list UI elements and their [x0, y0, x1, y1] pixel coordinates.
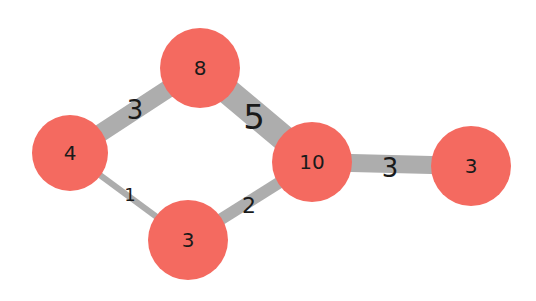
edge-weight-label: 3	[127, 95, 144, 125]
edge-weight-label: 3	[382, 153, 399, 183]
edge-weight-label: 5	[243, 97, 265, 137]
node-label: 8	[194, 56, 207, 80]
node-label: 10	[299, 150, 324, 174]
nodes-layer: 841033	[32, 28, 511, 280]
node-label: 3	[465, 154, 478, 178]
edges-layer	[70, 68, 471, 240]
node-label: 3	[182, 228, 195, 252]
graph-node: 10	[272, 122, 352, 202]
edge-weight-label: 2	[242, 193, 256, 218]
node-label: 4	[64, 141, 77, 165]
graph-node: 8	[160, 28, 240, 108]
graph-node: 4	[32, 115, 108, 191]
weighted-graph: 35123 841033	[0, 0, 536, 301]
edge-weight-label: 1	[124, 184, 135, 205]
graph-node: 3	[431, 126, 511, 206]
graph-node: 3	[148, 200, 228, 280]
